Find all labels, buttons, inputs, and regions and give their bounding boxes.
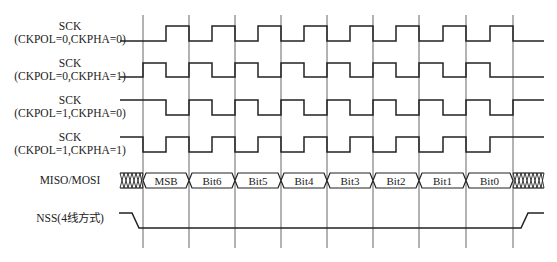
sck-waveform xyxy=(120,26,544,41)
sck-label-mode1: SCK (CKPOL=0,CKPHA=1) xyxy=(10,57,130,83)
sck-waveform xyxy=(120,100,544,115)
signal-name: SCK xyxy=(10,20,130,33)
bit-label: Bit1 xyxy=(419,174,466,188)
sck-label-mode2: SCK (CKPOL=1,CKPHA=0) xyxy=(10,94,130,120)
signal-config: (CKPOL=0,CKPHA=1) xyxy=(10,70,130,83)
sck-waveform xyxy=(120,137,544,152)
bit-label: Bit4 xyxy=(281,174,327,188)
nss-label: NSS(4线方式) xyxy=(25,212,115,225)
signal-name: SCK xyxy=(10,94,130,107)
bit-label: Bit3 xyxy=(327,174,373,188)
bit-label: Bit0 xyxy=(466,174,513,188)
sck-waveforms xyxy=(120,26,544,152)
bit-label: MSB xyxy=(143,174,189,188)
sck-label-mode3: SCK (CKPOL=1,CKPHA=1) xyxy=(10,131,130,157)
signal-config: (CKPOL=0,CKPHA=0) xyxy=(10,33,130,46)
sck-label-mode0: SCK (CKPOL=0,CKPHA=0) xyxy=(10,20,130,46)
signal-config: (CKPOL=1,CKPHA=0) xyxy=(10,107,130,120)
bit-label: Bit5 xyxy=(235,174,281,188)
signal-config: (CKPOL=1,CKPHA=1) xyxy=(10,144,130,157)
signal-name: SCK xyxy=(10,131,130,144)
nss-name: NSS(4线方式) xyxy=(25,212,115,225)
nss-waveform xyxy=(119,213,544,228)
bus-name: MISO/MOSI xyxy=(30,174,110,187)
bit-label: Bit6 xyxy=(189,174,235,188)
signal-name: SCK xyxy=(10,57,130,70)
miso-mosi-label: MISO/MOSI xyxy=(30,174,110,187)
bit-label: Bit2 xyxy=(373,174,419,188)
sck-waveform xyxy=(120,63,544,77)
cycle-gridlines xyxy=(143,15,513,248)
nss-line xyxy=(119,213,544,228)
